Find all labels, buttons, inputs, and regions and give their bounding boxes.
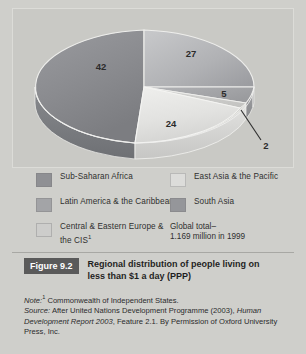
slice-east-asia-pacific [144,30,254,87]
source-label: Source: [24,306,50,315]
legend-swatch-central-eastern-europe-cis [36,223,52,237]
legend-swatch-sub-saharan-africa [36,173,52,187]
caption-divider [12,252,294,253]
legend-item-east-asia-pacific: East Asia & the Pacific [170,172,294,192]
legend-item-south-asia: South Asia [170,197,294,217]
note-text: Commonwealth of Independent States. [47,296,178,305]
legend-label-south-asia: South Asia [194,197,234,207]
pie-chart-panel: 42 27 24 5 2 [12,8,294,168]
global-total-line-2: 1.169 million in 1999 [170,232,294,242]
figure-source: Source: After United Nations Development… [24,306,292,338]
legend-label-central-eastern-europe-cis: Central & Eastern Europe & the CIS1 [60,222,176,246]
slice-label-42: 42 [96,61,107,72]
figure-page: 42 27 24 5 2 Sub-Saharan Africa Latin Am… [0,0,306,354]
slice-label-5: 5 [221,88,227,99]
pie-chart-svg: 42 27 24 5 2 [13,9,295,169]
figure-caption-block: Figure 9.2 Regional distribution of peop… [12,252,294,348]
figure-note: Note:1 Commonwealth of Independent State… [24,292,290,306]
legend-label-cis-text: Central & Eastern Europe & the CIS [60,222,164,245]
legend-item-latin-america-caribbean: Latin America & the Caribbean [36,197,176,217]
legend-item-central-eastern-europe-cis: Central & Eastern Europe & the CIS1 [36,222,176,246]
legend-swatch-east-asia-pacific [170,173,186,187]
legend-footnote-marker-cis: 1 [88,234,91,240]
chart-legend: Sub-Saharan Africa Latin America & the C… [12,172,294,250]
note-footnote-marker: 1 [42,294,45,300]
legend-label-sub-saharan-africa: Sub-Saharan Africa [60,172,133,182]
note-label: Note: [24,296,42,305]
global-total-line-1: Global total– [170,222,294,232]
legend-swatch-latin-america-caribbean [36,198,52,212]
figure-title: Regional distribution of people living o… [88,258,276,282]
source-text-1: After United Nations Development Program… [52,306,235,315]
leader-line-cis [241,110,261,140]
legend-column-right: East Asia & the Pacific South Asia Globa… [170,172,294,242]
slice-label-27: 27 [186,48,197,59]
figure-number-badge: Figure 9.2 [24,258,79,274]
caption-header: Figure 9.2 Regional distribution of peop… [24,258,276,282]
legend-swatch-south-asia [170,198,186,212]
slice-label-2: 2 [263,140,268,151]
legend-column-left: Sub-Saharan Africa Latin America & the C… [36,172,176,251]
legend-label-east-asia-pacific: East Asia & the Pacific [194,172,278,182]
global-total-block: Global total– 1.169 million in 1999 [170,222,294,242]
legend-label-latin-america-caribbean: Latin America & the Caribbean [60,197,174,207]
legend-item-sub-saharan-africa: Sub-Saharan Africa [36,172,176,192]
slice-label-24: 24 [166,118,177,129]
pie-chart: 42 27 24 5 2 [13,9,295,169]
